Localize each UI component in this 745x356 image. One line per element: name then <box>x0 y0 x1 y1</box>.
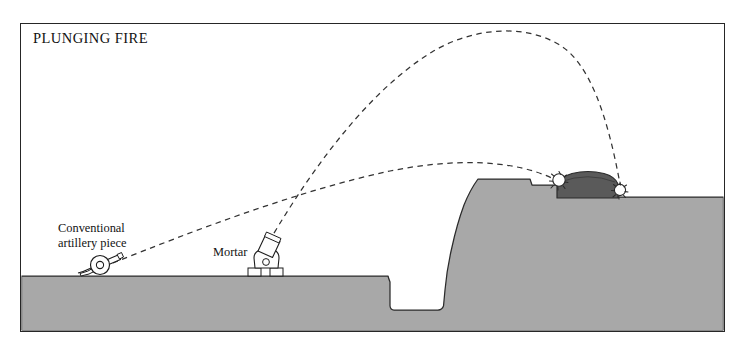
label-conventional-line-1: Conventional <box>58 221 126 236</box>
mortar-icon <box>248 232 283 276</box>
label-conventional-line-2: artillery piece <box>58 236 126 251</box>
label-conventional-artillery-piece: Conventional artillery piece <box>58 221 126 250</box>
plunging-fire-figure: PLUNGING FIRE <box>0 0 745 356</box>
label-mortar: Mortar <box>213 245 247 260</box>
scene-graphic <box>0 0 745 356</box>
conventional-artillery-piece-icon <box>78 253 124 277</box>
ground-profile <box>22 179 724 331</box>
